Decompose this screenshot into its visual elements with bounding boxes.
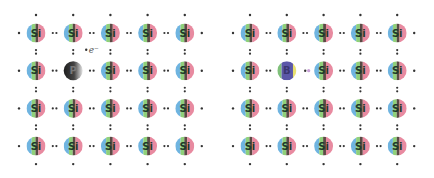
valence-electron [109, 87, 111, 89]
bond-electron-pair [286, 163, 288, 165]
valence-electron [359, 87, 361, 89]
silicon-atom: Si [351, 99, 370, 118]
silicon-atom: Si [175, 61, 194, 80]
silicon-atom: Si [314, 61, 333, 80]
bond-electron-pair [126, 32, 132, 34]
silicon-atom: Si [138, 61, 157, 80]
bond-electron-pair [286, 14, 288, 16]
bond-electron-pair [232, 32, 234, 34]
valence-electron [93, 107, 95, 109]
valence-electron [376, 145, 378, 147]
valence-electron [306, 32, 308, 34]
valence-electron [55, 32, 57, 34]
valence-electron [249, 124, 251, 126]
silicon-atom: Si [277, 99, 296, 118]
atom-symbol: P [70, 65, 77, 76]
valence-electron [93, 145, 95, 147]
bond-electron-pair [396, 163, 398, 165]
bond-electron-pair [339, 107, 345, 109]
atom-symbol: Si [179, 103, 190, 114]
valence-electron [302, 107, 304, 109]
valence-electron [323, 90, 325, 92]
atom-symbol: Si [355, 65, 366, 76]
valence-electron [380, 107, 382, 109]
valence-electron [52, 145, 54, 147]
valence-electron [359, 53, 361, 55]
bond-electron-pair [359, 124, 361, 130]
valence-electron [269, 32, 271, 34]
bond-electron-pair [396, 124, 398, 130]
atom-symbol: Si [392, 65, 403, 76]
valence-electron [343, 145, 345, 147]
bond-electron-pair [413, 32, 415, 34]
bond-electron-pair [184, 14, 186, 16]
valence-electron [359, 124, 361, 126]
silicon-atom: Si [138, 99, 157, 118]
atom-symbol: Si [392, 103, 403, 114]
valence-electron [18, 70, 20, 72]
valence-electron [147, 49, 149, 51]
bond-electron-pair [35, 124, 37, 130]
bond-electron-pair [302, 32, 308, 34]
atom-symbol: Si [68, 103, 79, 114]
valence-electron [249, 87, 251, 89]
valence-electron [184, 163, 186, 165]
bond-electron-pair [109, 87, 111, 93]
bond-electron-pair [52, 107, 58, 109]
silicon-atom: Si [101, 99, 120, 118]
valence-electron [201, 145, 203, 147]
atom-symbol: Si [142, 65, 153, 76]
valence-electron [35, 128, 37, 130]
valence-electron [269, 145, 271, 147]
bond-electron-pair [249, 124, 251, 130]
valence-electron [126, 70, 128, 72]
valence-electron [55, 70, 57, 72]
bond-electron-pair [72, 87, 74, 93]
bond-electron-pair [323, 87, 325, 93]
valence-electron [343, 70, 345, 72]
valence-electron [18, 107, 20, 109]
silicon-atom: Si [241, 61, 260, 80]
valence-electron [72, 163, 74, 165]
bond-electron-pair [109, 49, 111, 55]
bond-electron-pair [163, 70, 169, 72]
bond-electron-pair [359, 163, 361, 165]
valence-electron [163, 32, 165, 34]
valence-electron [89, 145, 91, 147]
atom-symbol: Si [31, 65, 42, 76]
valence-electron [304, 70, 306, 72]
atom-symbol: Si [105, 103, 116, 114]
valence-electron [184, 128, 186, 130]
atom-symbol: Si [281, 103, 292, 114]
bond-electron-pair [322, 163, 324, 165]
valence-electron [109, 90, 111, 92]
silicon-atom: Si [101, 24, 120, 43]
bond-electron-pair [184, 87, 186, 93]
valence-electron [184, 90, 186, 92]
valence-electron [322, 14, 324, 16]
silicon-atom: Si [138, 137, 157, 156]
valence-electron [376, 107, 378, 109]
valence-electron [339, 70, 341, 72]
silicon-atom: Si [351, 61, 370, 80]
bond-electron-pair [89, 145, 95, 147]
valence-electron [201, 70, 203, 72]
bond-electron-pair [232, 107, 234, 109]
valence-electron [359, 163, 361, 165]
valence-electron [249, 14, 251, 16]
valence-electron [376, 32, 378, 34]
bond-electron-pair [339, 32, 345, 34]
bond-electron-pair [184, 124, 186, 130]
crystal-lattice-diagram: SiSiSiSiSiSiPSiSiSiSiSiSiSiSiSiSiSiSiSie… [0, 0, 434, 178]
valence-electron [167, 107, 169, 109]
valence-electron [376, 70, 378, 72]
p-type-lattice-panel: SiSiSiSiSiSiBSiSiSiSiSiSiSiSiSiSiSiSiSi [232, 14, 416, 166]
valence-electron [396, 90, 398, 92]
bond-electron-pair [323, 124, 325, 130]
valence-electron [89, 107, 91, 109]
valence-electron [146, 163, 148, 165]
valence-electron [396, 87, 398, 89]
silicon-atom: Si [27, 137, 46, 156]
valence-electron [249, 49, 251, 51]
bond-electron-pair [323, 49, 325, 55]
